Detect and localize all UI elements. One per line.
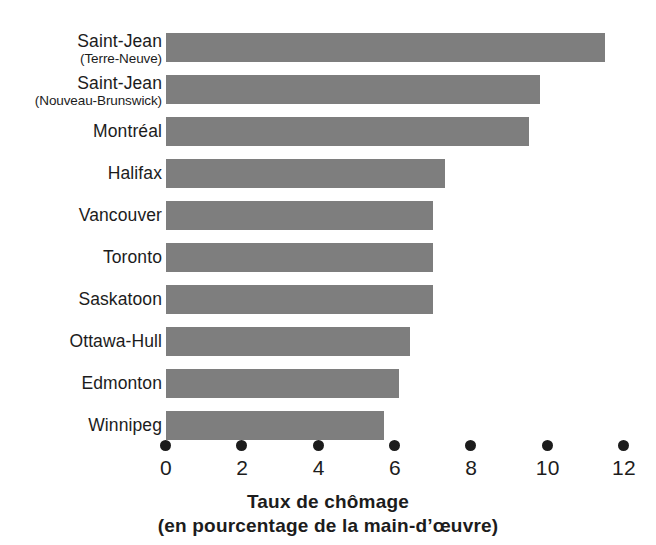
x-axis-tick-label: 8 — [445, 456, 497, 480]
unemployment-bar-chart: Saint-Jean(Terre-Neuve)Saint-Jean(Nouvea… — [0, 0, 656, 545]
bar — [166, 75, 540, 104]
x-axis-tick-label: 0 — [140, 456, 192, 480]
x-axis-tick-label: 4 — [293, 456, 345, 480]
category-label: Montréal — [2, 117, 162, 146]
tick-dot-icon — [465, 440, 476, 451]
bar-row: Montréal — [0, 117, 656, 159]
category-label-line-1: Saint-Jean — [2, 75, 162, 93]
bar — [166, 159, 445, 188]
bar-row: Ottawa-Hull — [0, 327, 656, 369]
category-label: Toronto — [2, 243, 162, 272]
category-label-line-2: (Terre-Neuve) — [2, 52, 162, 66]
tick-dot-icon — [542, 440, 553, 451]
category-label-line-1: Winnipeg — [2, 411, 162, 440]
category-label: Edmonton — [2, 369, 162, 398]
caption-line-1: Taux de chômage — [0, 490, 656, 514]
bar-row: Saskatoon — [0, 285, 656, 327]
category-label-line-1: Toronto — [2, 243, 162, 272]
category-label-line-2: (Nouveau-Brunswick) — [2, 94, 162, 108]
category-label-line-1: Edmonton — [2, 369, 162, 398]
bar — [166, 117, 529, 146]
bar-row: Toronto — [0, 243, 656, 285]
category-label-line-1: Montréal — [2, 117, 162, 146]
bar-row: Edmonton — [0, 369, 656, 411]
category-label-line-1: Vancouver — [2, 201, 162, 230]
x-axis-tick-label: 12 — [598, 456, 650, 480]
category-label: Winnipeg — [2, 411, 162, 440]
category-label-line-1: Ottawa-Hull — [2, 327, 162, 356]
tick-dot-icon — [160, 440, 171, 451]
bar-row: Saint-Jean(Terre-Neuve) — [0, 33, 656, 75]
tick-dot-icon — [236, 440, 247, 451]
bar-row: Vancouver — [0, 201, 656, 243]
tick-dot-icon — [389, 440, 400, 451]
bar — [166, 201, 433, 230]
category-label: Saint-Jean(Terre-Neuve) — [2, 33, 162, 65]
bar-row: Halifax — [0, 159, 656, 201]
category-label-line-1: Saint-Jean — [2, 33, 162, 51]
plot-area: Saint-Jean(Terre-Neuve)Saint-Jean(Nouvea… — [0, 0, 656, 445]
x-axis-tick-label: 2 — [216, 456, 268, 480]
bar — [166, 411, 384, 440]
x-axis: 024681012 — [0, 440, 656, 488]
bar — [166, 33, 605, 62]
bar — [166, 243, 433, 272]
category-label: Saskatoon — [2, 285, 162, 314]
category-label: Ottawa-Hull — [2, 327, 162, 356]
x-axis-tick-label: 10 — [522, 456, 574, 480]
bar — [166, 327, 410, 356]
category-label: Saint-Jean(Nouveau-Brunswick) — [2, 75, 162, 107]
x-axis-tick-label: 6 — [369, 456, 421, 480]
category-label: Vancouver — [2, 201, 162, 230]
category-label-line-1: Halifax — [2, 159, 162, 188]
bar — [166, 369, 399, 398]
tick-dot-icon — [313, 440, 324, 451]
category-label-line-1: Saskatoon — [2, 285, 162, 314]
tick-dot-icon — [618, 440, 629, 451]
chart-caption: Taux de chômage (en pourcentage de la ma… — [0, 490, 656, 538]
bar-row: Saint-Jean(Nouveau-Brunswick) — [0, 75, 656, 117]
caption-line-2: (en pourcentage de la main-d’œuvre) — [0, 514, 656, 538]
bar — [166, 285, 433, 314]
category-label: Halifax — [2, 159, 162, 188]
